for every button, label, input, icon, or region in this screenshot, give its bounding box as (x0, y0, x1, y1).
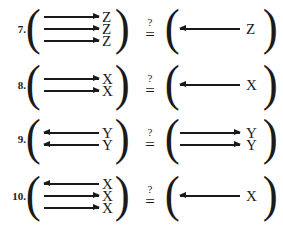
problem-number: 9. (6, 133, 26, 145)
close-paren-right: ) (263, 2, 278, 52)
problem-9: 9.(YY)?=(YY) (0, 111, 283, 167)
left-expression: YY (44, 127, 118, 151)
arrow-label: Y (102, 139, 113, 151)
open-paren-left: ( (26, 112, 41, 162)
equals-sign: = (143, 138, 157, 152)
left-arrow-row: Z (44, 35, 118, 47)
close-paren-left: ) (115, 2, 130, 52)
arrow-label: X (102, 202, 113, 214)
arrow-label: X (246, 190, 257, 202)
right-expression: X (180, 190, 262, 202)
equals-sign: = (143, 28, 157, 42)
close-paren-left: ) (115, 169, 130, 219)
close-paren-left: ) (115, 112, 130, 162)
left-expression: XX (44, 73, 118, 97)
arrow-left-icon (180, 84, 240, 86)
arrow-right-icon (44, 207, 99, 209)
right-arrow-row: Y (180, 139, 262, 151)
arrow-right-icon (180, 132, 240, 134)
equals-sign: = (143, 84, 157, 98)
arrow-label: Z (246, 23, 255, 35)
right-expression: YY (180, 127, 262, 151)
arrow-right-icon (44, 40, 99, 42)
left-arrow-row: X (44, 202, 118, 214)
close-paren-left: ) (115, 58, 130, 108)
left-arrow-row: X (44, 85, 118, 97)
arrow-right-icon (44, 28, 99, 30)
equals-sign: = (143, 195, 157, 209)
close-paren-right: ) (263, 58, 278, 108)
left-arrow-row: Y (44, 139, 118, 151)
problem-number: 8. (6, 79, 26, 91)
arrow-label: X (102, 85, 113, 97)
arrow-left-icon (44, 144, 99, 146)
arrow-right-icon (44, 78, 99, 80)
open-paren-right: ( (165, 58, 180, 108)
question-equals: ?= (143, 73, 157, 98)
problem-number: 10. (6, 190, 26, 202)
arrow-label: Z (102, 35, 111, 47)
right-expression: Z (180, 23, 262, 35)
open-paren-right: ( (165, 112, 180, 162)
question-equals: ?= (143, 127, 157, 152)
right-expression: X (180, 79, 262, 91)
question-equals: ?= (143, 184, 157, 209)
arrow-left-icon (180, 28, 240, 30)
open-paren-left: ( (26, 169, 41, 219)
left-expression: XXX (44, 178, 118, 214)
right-arrow-row: X (180, 190, 262, 202)
arrow-right-icon (44, 195, 99, 197)
open-paren-left: ( (26, 58, 41, 108)
arrow-label: X (246, 79, 257, 91)
arrow-right-icon (44, 16, 99, 18)
left-expression: ZZZ (44, 11, 118, 47)
arrow-left-icon (44, 132, 99, 134)
problem-number: 7. (6, 23, 26, 35)
close-paren-right: ) (263, 169, 278, 219)
right-arrow-row: X (180, 79, 262, 91)
arrow-label: Y (246, 139, 257, 151)
problem-7: 7.(ZZZ)?=(Z) (0, 1, 283, 57)
arrow-left-icon (180, 195, 240, 197)
problem-8: 8.(XX)?=(X) (0, 57, 283, 113)
problem-10: 10.(XXX)?=(X) (0, 168, 283, 224)
arrow-left-icon (44, 183, 99, 185)
open-paren-left: ( (26, 2, 41, 52)
close-paren-right: ) (263, 112, 278, 162)
open-paren-right: ( (165, 169, 180, 219)
right-arrow-row: Z (180, 23, 262, 35)
open-paren-right: ( (165, 2, 180, 52)
arrow-right-icon (44, 90, 99, 92)
question-equals: ?= (143, 17, 157, 42)
arrow-right-icon (180, 144, 240, 146)
